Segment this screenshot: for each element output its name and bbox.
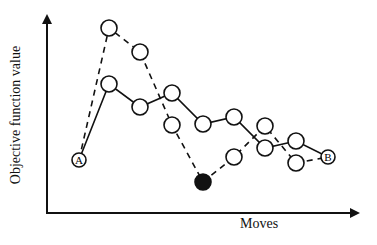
end-node-label: B: [324, 151, 331, 163]
search-path-diagram: AB: [0, 0, 377, 245]
dashed-node: [226, 149, 242, 165]
solid-node: [257, 140, 273, 156]
dashed-node: [101, 20, 117, 36]
dashed-node: [288, 155, 304, 171]
solid-node: [101, 76, 117, 92]
dashed-node: [164, 117, 180, 133]
x-axis-label: Moves: [240, 216, 278, 232]
filled-node: [195, 174, 211, 190]
dashed-node: [257, 118, 273, 134]
solid-node: [164, 85, 180, 101]
solid-node: [226, 109, 242, 125]
dashed-node: [132, 44, 148, 60]
solid-node: [132, 99, 148, 115]
y-axis-label: Objective function value: [8, 20, 24, 210]
solid-node: [195, 116, 211, 132]
solid-node: [288, 133, 304, 149]
start-node-label: A: [75, 154, 83, 166]
